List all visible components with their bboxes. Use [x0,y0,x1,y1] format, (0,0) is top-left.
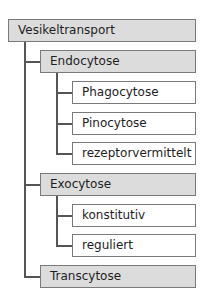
node-endocytose: Endocytose [40,50,196,73]
node-exocytose: Exocytose [40,173,196,196]
node-pinocytose: Pinocytose [72,112,196,135]
rezeptorvermittelt-h-connector [56,153,72,155]
konstitutiv-h-connector [56,215,72,217]
exocytose-vertical-connector [56,196,58,246]
transcytose-h-connector [24,276,40,278]
node-phagocytose: Phagocytose [72,81,196,104]
node-vesikeltransport: Vesikeltransport [8,19,196,42]
node-rezeptorvermittelt: rezeptorvermittelt [72,142,196,165]
pinocytose-h-connector [56,123,72,125]
endocytose-vertical-connector [56,73,58,154]
phagocytose-h-connector [56,92,72,94]
root-vertical-connector [24,42,26,277]
exocytose-h-connector [24,184,40,186]
node-konstitutiv: konstitutiv [72,204,196,227]
reguliert-h-connector [56,245,72,247]
node-reguliert: reguliert [72,234,196,257]
endocytose-h-connector [24,61,40,63]
node-transcytose: Transcytose [40,265,196,288]
